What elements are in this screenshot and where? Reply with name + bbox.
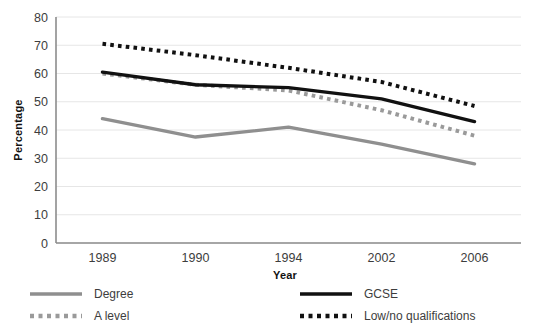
- y-tick-label: 80: [34, 11, 48, 25]
- x-tick-labels: 19891990199420022006: [89, 251, 489, 265]
- y-tick-labels: 01020304050607080: [34, 11, 48, 251]
- y-axis-title: Percentage: [12, 99, 24, 160]
- x-tick-label: 2006: [461, 251, 489, 265]
- series-line-low-no-qualifications: [103, 44, 475, 106]
- legend-label-a-level: A level: [94, 309, 129, 323]
- series-lines: [103, 44, 475, 164]
- legend-label-degree: Degree: [94, 287, 134, 301]
- y-tick-label: 60: [34, 67, 48, 81]
- x-tick-label: 1990: [182, 251, 210, 265]
- y-tick-label: 10: [34, 208, 48, 222]
- y-tick-label: 30: [34, 152, 48, 166]
- series-line-degree: [103, 119, 475, 164]
- legend-label-low-no-qualifications: Low/no qualifications: [364, 309, 475, 323]
- chart-container: 01020304050607080 19891990199420022006 P…: [0, 0, 542, 335]
- y-tick-label: 70: [34, 39, 48, 53]
- x-tick-label: 1994: [275, 251, 303, 265]
- x-tick-label: 1989: [89, 251, 117, 265]
- legend-label-gcse: GCSE: [364, 287, 398, 301]
- y-tick-label: 20: [34, 180, 48, 194]
- series-line-gcse: [103, 72, 475, 121]
- y-tick-label: 50: [34, 95, 48, 109]
- y-tick-label: 40: [34, 124, 48, 138]
- line-chart: 01020304050607080 19891990199420022006 P…: [0, 0, 542, 335]
- chart-legend: DegreeGCSEA levelLow/no qualifications: [30, 287, 475, 323]
- y-tick-label: 0: [41, 237, 48, 251]
- x-tick-label: 2002: [368, 251, 396, 265]
- x-axis-title: Year: [273, 269, 298, 281]
